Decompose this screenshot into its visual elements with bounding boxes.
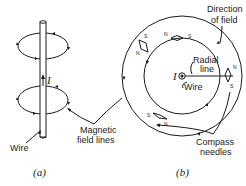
magnetic-field-diagram: I Wire Magnetic field lines (a) I Wire bbox=[0, 0, 246, 186]
svg-text:N: N bbox=[233, 64, 237, 70]
current-label-b: I bbox=[172, 70, 178, 82]
svg-text:S: S bbox=[230, 83, 234, 89]
panel-a: I Wire Magnetic field lines (a) bbox=[10, 21, 122, 179]
svg-text:S: S bbox=[147, 112, 151, 118]
wire-label-a: Wire bbox=[10, 143, 29, 153]
current-label-a: I bbox=[46, 74, 52, 86]
caption-a: (a) bbox=[33, 166, 46, 179]
compass-label-1: Compass bbox=[196, 137, 235, 147]
svg-text:N: N bbox=[136, 50, 140, 56]
radial-label-2: line bbox=[200, 64, 214, 74]
direction-label-2: of field bbox=[211, 15, 238, 25]
caption-b: (b) bbox=[176, 166, 189, 179]
field-lines-label-1: Magnetic bbox=[80, 125, 117, 135]
direction-label-1: Direction bbox=[207, 4, 243, 14]
field-lines-label-2: field lines bbox=[77, 135, 115, 145]
wire-cross-section bbox=[179, 73, 185, 79]
svg-text:N: N bbox=[164, 31, 168, 37]
panel-b: I Wire Radial line S N N S N S S N bbox=[122, 4, 243, 179]
compass-label-2: needles bbox=[200, 147, 232, 157]
svg-text:S: S bbox=[144, 33, 148, 39]
compass-needle-inner-top: N S bbox=[164, 31, 192, 41]
svg-text:S: S bbox=[188, 33, 192, 39]
compass-needle-outer-top-left: S N bbox=[136, 33, 148, 56]
wire-label-b: Wire bbox=[184, 82, 203, 92]
